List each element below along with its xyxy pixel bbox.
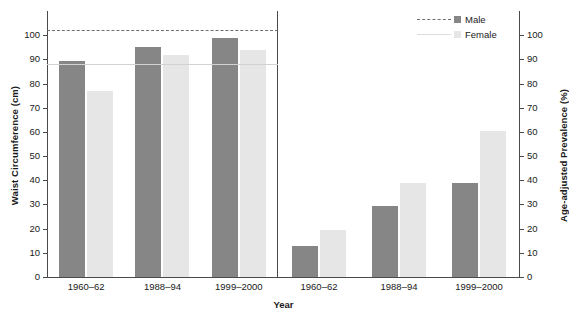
y-tick-right-30 <box>520 204 524 205</box>
y-tick-right-10 <box>520 253 524 254</box>
y-ticklabel-left-40: 40 <box>8 175 40 185</box>
bar-male <box>372 206 398 277</box>
x-axis-label: Year <box>0 299 567 310</box>
bar-female <box>163 55 189 277</box>
bar-male <box>452 183 478 277</box>
y-tick-right-40 <box>520 180 524 181</box>
y-ticklabel-left-0: 0 <box>8 272 40 282</box>
y-ticklabel-right-80: 80 <box>527 79 559 89</box>
y-tick-left-70 <box>43 108 47 109</box>
legend-label-male: Male <box>465 14 507 25</box>
y-tick-left-20 <box>43 229 47 230</box>
panel-waist-circumference <box>48 11 277 277</box>
x-ticklabel: 1960–62 <box>279 281 359 292</box>
y-ticklabel-right-20: 20 <box>527 224 559 234</box>
bar-group <box>48 11 124 277</box>
y-axis-label-left: Waist Circumference (cm) <box>9 76 20 216</box>
y-ticklabel-right-30: 30 <box>527 199 559 209</box>
y-tick-left-80 <box>43 84 47 85</box>
y-ticklabel-right-10: 10 <box>527 248 559 258</box>
y-ticklabel-left-60: 60 <box>8 127 40 137</box>
y-tick-left-90 <box>43 59 47 60</box>
x-ticklabel: 1999–2000 <box>201 281 277 292</box>
y-tick-right-70 <box>520 108 524 109</box>
bar-group <box>439 11 519 277</box>
bar-male <box>59 61 85 277</box>
bar-male <box>135 47 161 277</box>
bar-group <box>359 11 439 277</box>
y-tick-right-0 <box>520 277 524 278</box>
solid-line-icon <box>417 34 451 35</box>
y-tick-left-30 <box>43 204 47 205</box>
y-ticklabel-left-70: 70 <box>8 103 40 113</box>
color-swatch-icon <box>454 16 461 23</box>
legend-item-male: Male <box>395 12 507 27</box>
y-tick-left-10 <box>43 253 47 254</box>
legend: Male Female <box>395 12 507 42</box>
y-ticklabel-left-90: 90 <box>8 54 40 64</box>
y-tick-left-60 <box>43 132 47 133</box>
y-tick-right-100 <box>520 35 524 36</box>
panel-age-adjusted-prevalence <box>279 11 519 277</box>
y-tick-right-90 <box>520 59 524 60</box>
y-tick-left-50 <box>43 156 47 157</box>
y-tick-right-60 <box>520 132 524 133</box>
y-tick-left-40 <box>43 180 47 181</box>
bar-female <box>87 91 113 277</box>
y-tick-left-0 <box>43 277 47 278</box>
bar-group <box>279 11 359 277</box>
bar-group <box>201 11 277 277</box>
x-ticklabel: 1988–94 <box>124 281 200 292</box>
y-axis-spine-right <box>519 11 520 277</box>
y-ticklabel-left-50: 50 <box>8 151 40 161</box>
y-ticklabel-left-100: 100 <box>8 30 40 40</box>
y-tick-right-80 <box>520 84 524 85</box>
x-ticklabel: 1999–2000 <box>439 281 519 292</box>
x-ticklabel: 1960–62 <box>48 281 124 292</box>
bar-female <box>480 131 506 277</box>
bar-group <box>124 11 200 277</box>
y-ticklabel-right-50: 50 <box>527 151 559 161</box>
color-swatch-icon <box>454 31 461 38</box>
y-tick-left-100 <box>43 35 47 36</box>
y-ticklabel-right-40: 40 <box>527 175 559 185</box>
y-ticklabel-left-20: 20 <box>8 224 40 234</box>
y-ticklabel-right-0: 0 <box>527 272 559 282</box>
reference-line-female <box>47 64 278 65</box>
bar-male <box>292 246 318 277</box>
y-ticklabel-right-70: 70 <box>527 103 559 113</box>
y-ticklabel-right-90: 90 <box>527 54 559 64</box>
bar-female <box>400 183 426 277</box>
y-tick-right-50 <box>520 156 524 157</box>
legend-item-female: Female <box>395 27 507 42</box>
x-axis-baseline <box>47 277 520 278</box>
y-ticklabel-right-60: 60 <box>527 127 559 137</box>
panel-divider <box>277 11 278 277</box>
y-ticklabel-left-30: 30 <box>8 199 40 209</box>
bar-female <box>240 50 266 277</box>
reference-line-male <box>47 30 278 31</box>
y-tick-right-20 <box>520 229 524 230</box>
bar-female <box>320 230 346 277</box>
x-ticklabel: 1988–94 <box>359 281 439 292</box>
bar-male <box>212 38 238 277</box>
y-ticklabel-left-80: 80 <box>8 79 40 89</box>
y-ticklabel-right-100: 100 <box>527 30 559 40</box>
y-axis-label-right: Age-adjusted Prevalence (%) <box>558 76 569 236</box>
legend-label-female: Female <box>465 29 507 40</box>
dashed-line-icon <box>417 19 451 20</box>
y-ticklabel-left-10: 10 <box>8 248 40 258</box>
